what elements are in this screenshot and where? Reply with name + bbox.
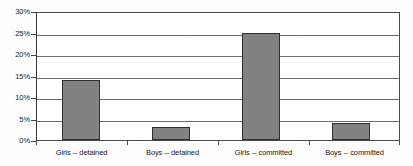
y-axis-label-10: 10% <box>0 94 30 102</box>
bar-chart-figure: 30% 25% 20% 15% 10% 5% 0% Girls -- detai… <box>0 0 413 166</box>
x-axis-label-girls-committed: Girls -- committed <box>218 148 309 158</box>
y-axis-label-5: 5% <box>0 116 30 124</box>
x-axis-tick-0 <box>36 141 37 145</box>
bar-girls-detained <box>62 80 100 140</box>
bar-boys-committed <box>332 123 370 140</box>
plot-area <box>36 12 400 141</box>
bar-boys-detained <box>152 127 190 140</box>
bar-girls-committed <box>242 33 280 140</box>
y-axis-label-25: 25% <box>0 30 30 38</box>
y-axis-label-15: 15% <box>0 73 30 81</box>
gridline-15 <box>37 78 399 79</box>
x-axis-label-boys-detained: Boys -- detained <box>127 148 218 158</box>
x-axis-tick-2 <box>218 141 219 145</box>
x-axis-label-girls-detained: Girls -- detained <box>36 148 127 158</box>
gridline-20 <box>37 56 399 57</box>
x-axis-tick-1 <box>127 141 128 145</box>
x-axis: Girls -- detained Boys -- detained Girls… <box>36 148 400 162</box>
x-axis-label-boys-committed: Boys -- committed <box>309 148 400 158</box>
x-axis-tick-4 <box>399 141 400 145</box>
y-axis-label-0: 0% <box>0 137 30 145</box>
y-axis-label-30: 30% <box>0 8 30 16</box>
gridline-25 <box>37 35 399 36</box>
x-axis-tick-3 <box>309 141 310 145</box>
y-axis-label-20: 20% <box>0 51 30 59</box>
y-axis: 30% 25% 20% 15% 10% 5% 0% <box>0 0 30 166</box>
